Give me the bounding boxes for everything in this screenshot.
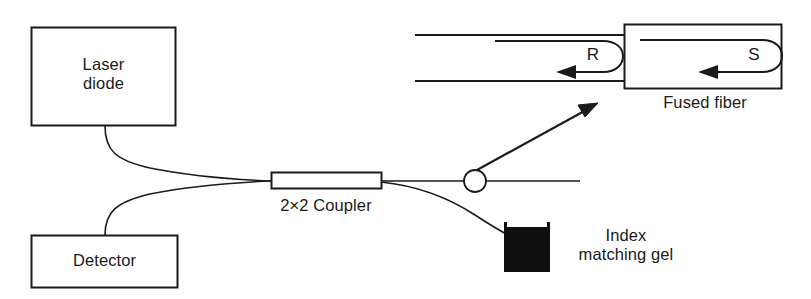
coupler-label: 2×2 Coupler — [246, 196, 406, 215]
detector-label: Detector — [31, 251, 178, 270]
index-matching-gel-label: Indexmatching gel — [554, 226, 698, 264]
fused-fiber-label: Fused fiber — [625, 93, 785, 112]
index-matching-gel-beaker — [505, 222, 549, 272]
index-matching-gel-label-line2: matching gel — [579, 245, 674, 263]
fiber-laser-to-coupler — [105, 126, 271, 181]
sample-beam-label: S — [742, 45, 766, 64]
laser-diode-label-line1: Laser — [83, 55, 125, 73]
figure-canvas: Laserdiode Detector 2×2 Coupler Fused fi… — [0, 0, 811, 299]
probe-marker-circle — [464, 170, 486, 192]
reference-beam-label: R — [581, 45, 605, 64]
callout-arrow — [477, 103, 598, 170]
laser-diode-label: Laserdiode — [31, 55, 176, 93]
coupler-box — [272, 173, 382, 189]
laser-diode-label-line2: diode — [83, 74, 124, 92]
index-matching-gel-label-line1: Index — [606, 226, 647, 244]
